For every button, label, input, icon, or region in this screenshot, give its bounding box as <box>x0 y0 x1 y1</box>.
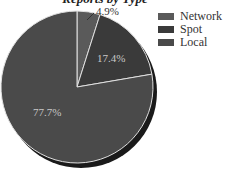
slice-label-local: 77.7% <box>33 106 61 118</box>
legend-swatch <box>158 39 174 46</box>
legend-swatch <box>158 13 174 20</box>
legend: Network Spot Local <box>158 10 222 49</box>
slice-label-spot: 17.4% <box>97 52 125 64</box>
pie-chart: Reports by Type 4.9% 17.4% 77.7% Network… <box>0 0 226 183</box>
slice-label-network: 4.9% <box>96 5 119 17</box>
legend-item-local: Local <box>158 36 222 49</box>
legend-swatch <box>158 26 174 33</box>
